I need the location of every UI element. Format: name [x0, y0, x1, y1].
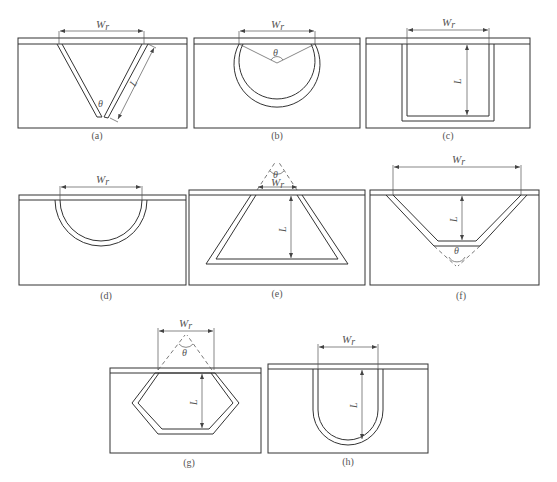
caption-d: (d) [100, 290, 112, 302]
panel-g: θ Wr L (g) [110, 317, 261, 469]
panel-h: Wr L (h) [268, 333, 428, 468]
caption-f: (f) [456, 290, 466, 302]
panel-f: θ Wr L (f) [370, 153, 539, 302]
angle-label: θ [182, 347, 187, 358]
angle-label: θ [98, 98, 103, 109]
caption-h: (h) [342, 456, 354, 468]
width-label: Wr [96, 18, 109, 32]
depth-label: L [277, 226, 288, 233]
trench-geometry-figure: Wr L θ (a) θ Wr (b) Wr [0, 0, 557, 482]
width-label: Wr [179, 317, 192, 331]
angle-label: θ [273, 47, 278, 58]
depth-label: L [188, 399, 199, 406]
panel-b: θ Wr (b) [194, 18, 360, 142]
width-label: Wr [96, 173, 109, 187]
depth-label: L [448, 216, 459, 223]
panel-e: θ Wr L (e) [189, 161, 365, 300]
caption-c: (c) [442, 130, 453, 142]
width-label: Wr [271, 18, 284, 32]
panel-d: Wr (d) [19, 173, 186, 302]
width-label: Wr [442, 16, 455, 30]
depth-label: L [127, 77, 140, 88]
width-label: Wr [342, 333, 355, 347]
panel-a: Wr L θ (a) [18, 18, 187, 142]
depth-label: L [452, 78, 463, 85]
caption-g: (g) [183, 457, 195, 469]
caption-b: (b) [271, 130, 283, 142]
caption-e: (e) [271, 288, 282, 300]
caption-a: (a) [91, 130, 102, 142]
width-label: Wr [271, 176, 284, 190]
panel-c: Wr L (c) [366, 16, 530, 142]
angle-label: θ [454, 245, 459, 256]
width-label: Wr [452, 153, 465, 167]
depth-label: L [348, 402, 359, 409]
